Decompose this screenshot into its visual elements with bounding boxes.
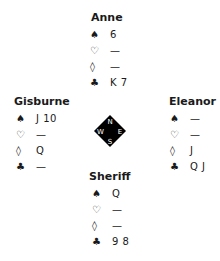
suit-row-diamonds: ◊Q [16,143,70,159]
hand-west: Gisburne ♠J 10 ♡— ◊Q ♣— [14,95,70,175]
suit-row-hearts: ♡— [92,202,130,218]
club-icon: ♣ [90,75,104,91]
suit-row-clubs: ♣Q J [170,159,216,175]
hand-south: Sheriff ♠Q ♡— ◊— ♣9 8 [89,170,130,250]
suit-row-clubs: ♣— [16,159,70,175]
cards: — [110,59,121,75]
hand-north: Anne ♠6 ♡— ◊— ♣K 7 [91,11,128,91]
club-icon: ♣ [92,234,106,250]
suit-row-hearts: ♡— [16,127,70,143]
heart-icon: ♡ [92,202,106,218]
suit-row-diamonds: ◊— [92,218,130,234]
cards: 6 [110,27,117,43]
spade-icon: ♠ [170,111,184,127]
player-name: Eleanor [169,95,216,109]
spade-icon: ♠ [90,27,104,43]
suit-row-spades: ♠— [170,111,216,127]
cards: Q J [190,159,206,175]
spade-icon: ♠ [92,186,106,202]
diamond-icon: ◊ [170,143,184,159]
diamond-icon: ◊ [92,218,106,234]
player-name: Anne [91,11,128,25]
cards: J [190,143,193,159]
cards: — [36,127,47,143]
suit-row-diamonds: ◊J [170,143,216,159]
club-icon: ♣ [16,159,30,175]
compass-e: E [118,128,122,136]
suit-row-spades: ♠Q [92,186,130,202]
suit-row-diamonds: ◊— [90,59,128,75]
heart-icon: ♡ [170,127,184,143]
cards: — [110,43,121,59]
suit-row-clubs: ♣K 7 [90,75,128,91]
suit-row-hearts: ♡— [170,127,216,143]
club-icon: ♣ [170,159,184,175]
cards: 9 8 [112,234,129,250]
compass-s: S [108,138,113,146]
suit-row-hearts: ♡— [90,43,128,59]
suit-row-spades: ♠J 10 [16,111,70,127]
suit-row-clubs: ♣9 8 [92,234,130,250]
cards: — [112,218,123,234]
cards: — [190,127,201,143]
cards: Q [36,143,44,159]
cards: — [112,202,123,218]
suit-row-spades: ♠6 [90,27,128,43]
cards: — [36,159,47,175]
compass-icon: N E S W [94,115,126,147]
cards: J 10 [36,111,57,127]
diamond-icon: ◊ [90,59,104,75]
player-name: Gisburne [14,95,70,109]
cards: Q [112,186,120,202]
player-name: Sheriff [89,170,130,184]
spade-icon: ♠ [16,111,30,127]
compass-n: N [107,118,112,126]
hand-east: Eleanor ♠— ♡— ◊J ♣Q J [169,95,216,175]
cards: — [190,111,201,127]
heart-icon: ♡ [90,43,104,59]
cards: K 7 [110,75,128,91]
heart-icon: ♡ [16,127,30,143]
diamond-icon: ◊ [16,143,30,159]
compass-w: W [97,128,104,136]
